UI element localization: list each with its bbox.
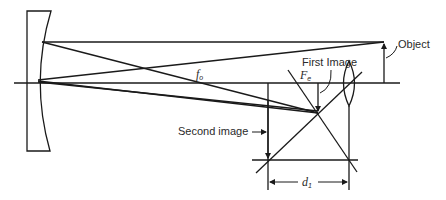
second-image-label: Second image [178, 125, 248, 137]
fe-label: Fe [299, 68, 311, 82]
ray-diagonal-down [288, 70, 357, 172]
fo-label: fo [196, 67, 203, 81]
first-image-leader [320, 70, 331, 93]
object-leader [386, 46, 397, 58]
ray-diagonal-up [256, 72, 362, 173]
ray-axis-reflected-2 [38, 82, 318, 111]
optical-diagram: Object First Image Fe fo Second image d1 [0, 0, 446, 200]
d1-label: d1 [302, 175, 312, 189]
object-label: Object [398, 38, 430, 50]
ray-top-reflected [42, 42, 318, 113]
